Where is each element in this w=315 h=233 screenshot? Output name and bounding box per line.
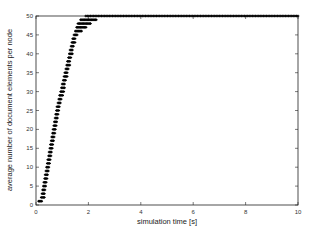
y-tick-label: 5 (30, 183, 34, 189)
y-tick-label: 45 (26, 32, 33, 38)
y-tick-label: 25 (26, 108, 33, 114)
x-tick-label: 2 (87, 209, 91, 215)
chart: 05101520253035404550 0246810 simulation … (0, 0, 315, 233)
x-tick-label: 0 (34, 209, 38, 215)
x-tick-label: 4 (139, 209, 143, 215)
data-series (37, 15, 299, 203)
x-axis-label: simulation time [s] (137, 217, 197, 226)
y-tick-label: 15 (26, 145, 33, 151)
y-tick-label: 20 (26, 126, 33, 132)
y-axis-ticks: 05101520253035404550 (26, 13, 298, 208)
plot-frame (36, 16, 298, 205)
y-tick-label: 50 (26, 13, 33, 19)
x-tick-label: 10 (295, 209, 302, 215)
y-tick-label: 0 (30, 202, 34, 208)
y-tick-label: 30 (26, 89, 33, 95)
y-tick-label: 40 (26, 51, 33, 57)
x-tick-label: 8 (244, 209, 248, 215)
x-tick-label: 6 (192, 209, 196, 215)
y-tick-label: 10 (26, 164, 33, 170)
y-axis-label: average number of document elements per … (5, 29, 14, 191)
y-tick-label: 35 (26, 70, 33, 76)
